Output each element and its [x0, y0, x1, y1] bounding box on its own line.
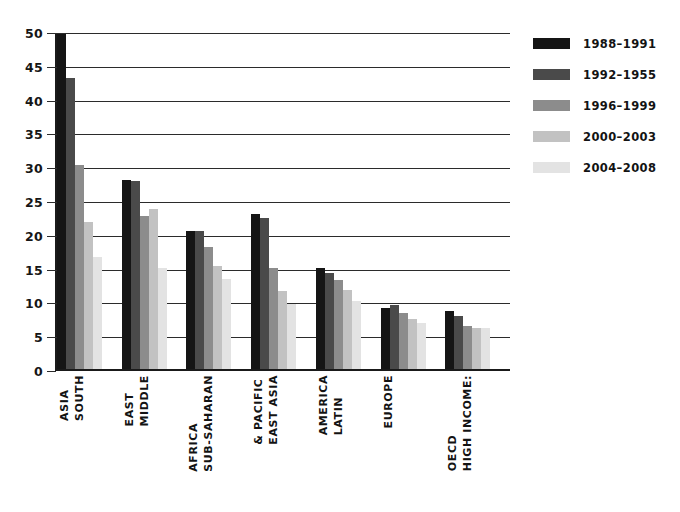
bar	[204, 247, 213, 369]
bar	[381, 308, 390, 369]
x-label-line: LATIN	[331, 375, 346, 435]
bar	[269, 268, 278, 369]
x-label-cell: MIDDLEEAST	[122, 375, 187, 510]
x-label-line: AMERICA	[316, 375, 331, 435]
y-tick-mark	[47, 202, 56, 203]
legend-item: 1996–1999	[533, 90, 673, 121]
bar	[122, 180, 131, 369]
bar	[222, 279, 231, 369]
x-label-cell: SOUTHASIA	[57, 375, 122, 510]
bar	[93, 257, 102, 369]
y-tick-mark	[47, 134, 56, 135]
legend-item: 2000–2003	[533, 121, 673, 152]
legend-label: 2004–2008	[583, 161, 656, 175]
y-tick-label: 10	[25, 296, 43, 311]
x-axis-category-label: SUB-SAHARANAFRICA	[186, 375, 216, 472]
bar-group	[122, 33, 187, 369]
plot-area: 05101520253035404550	[55, 33, 510, 371]
x-axis-line	[55, 369, 510, 371]
x-axis-category-label: SOUTHASIA	[57, 375, 87, 421]
bar	[278, 291, 287, 369]
bar	[463, 326, 472, 369]
y-tick-label: 30	[25, 161, 43, 176]
x-axis-category-label: LATINAMERICA	[316, 375, 346, 435]
legend-item: 1988–1991	[533, 28, 673, 59]
bar	[66, 78, 75, 369]
x-label-cell: EAST ASIA& PACIFIC	[251, 375, 316, 510]
x-label-line: OECD	[445, 375, 460, 471]
x-label-cell: LATINAMERICA	[316, 375, 381, 510]
bar	[325, 273, 334, 369]
y-tick-mark	[47, 101, 56, 102]
legend-swatch	[533, 69, 570, 80]
bar	[343, 290, 352, 369]
bar	[213, 266, 222, 369]
bar	[131, 181, 140, 369]
legend-swatch	[533, 162, 570, 173]
x-label-line: AFRICA	[186, 375, 201, 472]
y-tick-label: 5	[34, 330, 43, 345]
chart-legend: 1988–19911992–19551996–19992000–20032004…	[533, 28, 673, 183]
legend-label: 1992–1955	[583, 68, 656, 82]
x-label-line: & PACIFIC	[251, 375, 266, 445]
bar	[334, 280, 343, 369]
x-axis-category-label: MIDDLEEAST	[122, 375, 152, 426]
bar	[390, 305, 399, 369]
bar-group	[251, 33, 316, 369]
bar	[316, 268, 325, 369]
bar-group	[381, 33, 446, 369]
bar	[481, 328, 490, 369]
x-label-line: SUB-SAHARAN	[201, 375, 216, 472]
x-label-cell: SUB-SAHARANAFRICA	[186, 375, 251, 510]
x-axis-category-label: HIGH INCOME:OECD	[445, 375, 475, 471]
bar-chart: 05101520253035404550 SOUTHASIAMIDDLEEAST…	[0, 0, 680, 512]
bar	[445, 311, 454, 369]
y-tick-mark	[47, 67, 56, 68]
y-tick-mark	[47, 337, 56, 338]
x-axis-category-label: EUROPE	[381, 375, 396, 428]
y-tick-label: 50	[25, 26, 43, 41]
x-label-line: EUROPE	[381, 375, 396, 428]
bar	[399, 313, 408, 369]
y-tick-label: 25	[25, 195, 43, 210]
legend-swatch	[533, 131, 570, 142]
bar	[408, 319, 417, 369]
x-axis-category-label: EAST ASIA& PACIFIC	[251, 375, 281, 445]
bar	[260, 218, 269, 369]
legend-label: 1988–1991	[583, 37, 656, 51]
bar	[287, 304, 296, 369]
bar	[195, 231, 204, 369]
y-tick-label: 20	[25, 228, 43, 243]
x-label-cell: EUROPE	[381, 375, 446, 510]
x-axis-labels: SOUTHASIAMIDDLEEASTSUB-SAHARANAFRICAEAST…	[57, 375, 510, 510]
x-label-line: MIDDLE	[137, 375, 152, 426]
bar	[417, 323, 426, 369]
y-tick-mark	[47, 371, 56, 372]
legend-swatch	[533, 100, 570, 111]
y-tick-label: 35	[25, 127, 43, 142]
bar	[158, 268, 167, 369]
y-tick-label: 15	[25, 262, 43, 277]
x-label-line: EAST	[122, 375, 137, 426]
bar	[140, 216, 149, 369]
bar	[454, 316, 463, 369]
y-tick-label: 45	[25, 59, 43, 74]
legend-swatch	[533, 38, 570, 49]
y-tick-mark	[47, 303, 56, 304]
bar	[186, 231, 195, 369]
x-label-line: HIGH INCOME:	[460, 375, 475, 471]
legend-item: 2004–2008	[533, 152, 673, 183]
bar-group	[445, 33, 510, 369]
y-tick-label: 0	[34, 364, 43, 379]
bar	[472, 328, 481, 369]
bar-group	[57, 33, 122, 369]
legend-label: 2000–2003	[583, 130, 656, 144]
bar	[57, 34, 66, 369]
bar-groups	[57, 33, 510, 369]
y-tick-mark	[47, 236, 56, 237]
legend-item: 1992–1955	[533, 59, 673, 90]
bar-group	[316, 33, 381, 369]
x-label-cell: HIGH INCOME:OECD	[445, 375, 510, 510]
x-label-line: SOUTH	[72, 375, 87, 421]
bar	[75, 165, 84, 369]
